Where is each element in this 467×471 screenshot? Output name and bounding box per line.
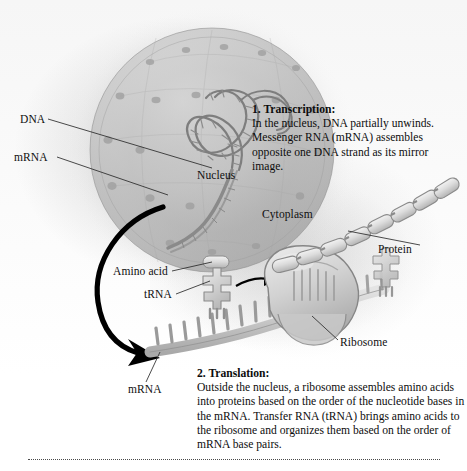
footer-dotted-rule — [28, 459, 440, 460]
callout-transcription-heading: 1. Transcription: — [252, 103, 335, 116]
callout-translation-heading: 2. Translation: — [197, 367, 269, 380]
label-trna: tRNA — [144, 288, 172, 301]
label-mrna-nucleus: mRNA — [14, 151, 48, 164]
callout-translation: 2. Translation: Outside the nucleus, a r… — [197, 367, 465, 452]
label-dna: DNA — [20, 113, 45, 126]
label-protein: Protein — [378, 243, 412, 256]
label-mrna-cytoplasm: mRNA — [128, 383, 162, 396]
label-nucleus: Nucleus — [197, 169, 235, 182]
label-cytoplasm: Cytoplasm — [262, 208, 313, 221]
callout-transcription: 1. Transcription: In the nucleus, DNA pa… — [252, 103, 458, 174]
callout-translation-body: Outside the nucleus, a ribosome assemble… — [197, 381, 464, 451]
label-ribosome: Ribosome — [340, 336, 387, 349]
label-amino-acid: Amino acid — [113, 265, 168, 278]
callout-transcription-body: In the nucleus, DNA partially unwinds. M… — [252, 117, 434, 173]
figure-canvas: DNA mRNA Nucleus Cytoplasm Protein Amino… — [0, 0, 467, 471]
